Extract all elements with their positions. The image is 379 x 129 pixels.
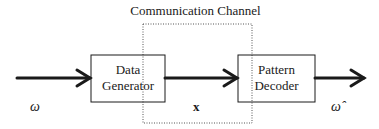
channel-title: Communication Channel [0,3,379,19]
input-symbol-omega: ω [30,99,40,115]
diagram-canvas [0,0,379,129]
input-arrow-icon [17,70,90,86]
pattern-decoder-label: Pattern Decoder [238,62,315,94]
pattern-decoder-line1: Pattern [238,62,315,78]
pattern-decoder-line2: Decoder [238,78,315,94]
signal-symbol-x: x [193,99,200,115]
data-generator-line2: Generator [91,78,165,94]
signal-arrow-icon [165,70,237,86]
data-generator-line1: Data [91,62,165,78]
data-generator-label: Data Generator [91,62,165,94]
output-arrow-icon [315,70,364,86]
output-symbol-omega-hat: ω̂ [331,99,341,115]
